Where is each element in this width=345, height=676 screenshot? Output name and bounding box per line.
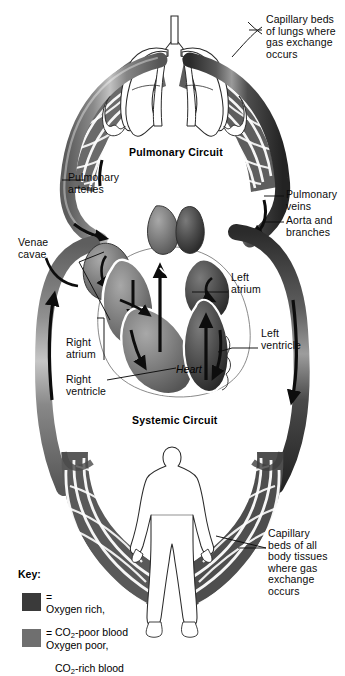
annotation-capillary-beds-lungs: Capillary beds of lungs where gas exchan… bbox=[266, 14, 345, 60]
annotation-venae-cavae: Venae cavae bbox=[18, 237, 74, 260]
heart-illustration bbox=[83, 206, 250, 397]
key-equals-oxygen-poor: = bbox=[46, 627, 52, 639]
key-line1-oxygen-rich: Oxygen rich, bbox=[46, 603, 105, 615]
annotation-right-atrium: Right atrium bbox=[66, 337, 116, 360]
key-co2-sub-oxygen-poor: 2 bbox=[71, 667, 75, 676]
key-label-oxygen-poor: = Oxygen poor, CO2-rich blood bbox=[46, 628, 124, 676]
key-co2-post-oxygen-poor: -rich blood bbox=[75, 662, 124, 674]
label-systemic-circuit: Systemic Circuit bbox=[132, 414, 217, 426]
label-heart: Heart bbox=[176, 363, 202, 375]
annotation-pulmonary-arteries: Pulmonary arteries bbox=[68, 172, 138, 195]
aortic-arch-stub bbox=[176, 207, 204, 254]
pulmonary-trunk-stub bbox=[147, 206, 178, 255]
key-title: Key: bbox=[18, 568, 41, 580]
right-ventricle-chamber bbox=[121, 308, 192, 394]
annotation-aorta-and-branches: Aorta and branches bbox=[286, 215, 345, 238]
key-co2-pre-oxygen-poor: CO bbox=[55, 662, 71, 674]
key-line1-oxygen-poor: Oxygen poor, bbox=[46, 639, 108, 651]
key-entry-oxygen-poor: = Oxygen poor, CO2-rich blood bbox=[22, 628, 124, 676]
key-swatch-oxygen-poor bbox=[22, 629, 41, 647]
annotation-pulmonary-veins: Pulmonary veins bbox=[286, 189, 345, 212]
annotation-right-ventricle: Right ventricle bbox=[66, 374, 122, 397]
key-swatch-oxygen-rich bbox=[22, 593, 41, 611]
annotation-left-atrium: Left atrium bbox=[231, 272, 281, 295]
key-equals-oxygen-rich: = bbox=[46, 591, 52, 603]
label-pulmonary-circuit: Pulmonary Circuit bbox=[129, 146, 223, 158]
annotation-left-ventricle: Left ventricle bbox=[261, 328, 317, 351]
annotation-capillary-beds-body: Capillary beds of all body tissues where… bbox=[268, 528, 345, 598]
body-silhouette bbox=[130, 447, 213, 637]
